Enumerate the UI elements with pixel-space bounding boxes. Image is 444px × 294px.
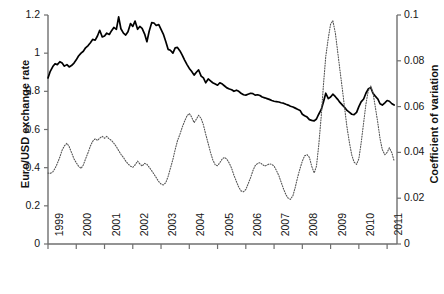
chart-figure: Euro/USD exchange rate Coefficient of va… [0,0,444,294]
chart-plot-area [0,0,444,294]
y-axis-right-tick-label: 0.06 [404,100,444,112]
y-axis-right-tick-label: 0.1 [404,8,444,20]
y-axis-left-tick-label: 1 [6,46,40,58]
y-axis-left-tick-label: 0.8 [6,84,40,96]
x-axis-tick-label: 2008 [307,213,319,253]
series-layer [48,17,394,199]
x-axis-tick-label: 2001 [110,213,122,253]
x-axis-tick-label: 2006 [251,213,263,253]
y-axis-right-tick-label: 0.02 [404,191,444,203]
x-axis-tick-label: 2010 [364,213,376,253]
x-axis-tick-label: 2000 [81,213,93,253]
x-axis-tick-label: 1999 [53,213,65,253]
x-axis-tick-label: 2009 [336,213,348,253]
x-axis-tick-label: 2011 [392,213,404,253]
y-axis-left-tick-label: 0.4 [6,161,40,173]
x-axis-tick-label: 2007 [279,213,291,253]
y-axis-left-tick-label: 0.6 [6,123,40,135]
x-axis-tick-label: 2005 [223,213,235,253]
y-axis-right-tick-label: 0.04 [404,145,444,157]
y-axis-right-tick-label: 0 [404,237,444,249]
x-axis-tick-label: 2003 [166,213,178,253]
x-axis-tick-label: 2002 [138,213,150,253]
y-axis-right-tick-label: 0.08 [404,54,444,66]
x-axis-tick-label: 2004 [194,213,206,253]
series-line-1 [48,17,394,121]
y-axis-left-tick-label: 0 [6,237,40,249]
series-line-2 [48,21,394,200]
y-axis-left-tick-label: 0.2 [6,199,40,211]
y-axis-left-tick-label: 1.2 [6,8,40,20]
